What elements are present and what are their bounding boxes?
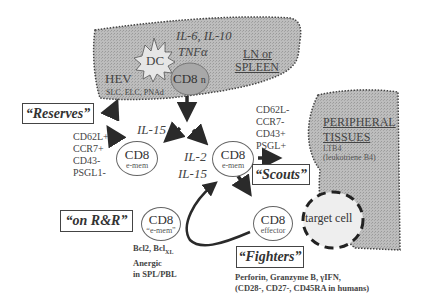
arrow-scouts-to-effector <box>238 176 246 188</box>
hev-sub: SLC, ELC, PNAd <box>106 89 164 97</box>
marker: PSGL1- <box>73 167 109 179</box>
scouts-cd8-cell: CD8 e-mem <box>212 141 254 177</box>
on-rr-desc: Bcl2, BclXL Anergic in SPL/PBL <box>133 243 177 280</box>
hev-label: HEV <box>105 72 132 85</box>
on-rr-label: “on R&R” <box>60 210 133 232</box>
peripheral-sub-1: LTB4 <box>323 145 341 153</box>
marker: CD43+ <box>256 128 289 140</box>
arrow-reserves-up1 <box>112 134 117 142</box>
fighters-label: “Fighters” <box>236 246 304 268</box>
cell-sub: effector <box>261 227 286 235</box>
cell-sub: e-mem <box>126 162 148 170</box>
peripheral-label-1: PERIPHERAL <box>323 116 396 128</box>
peripheral-sub-2: (leukotriene B4) <box>323 154 376 162</box>
cell-sub: “e-mem” <box>146 227 175 235</box>
scouts-cytokine-1: IL-2 <box>184 150 206 163</box>
reserves-label: “Reserves” <box>22 103 94 124</box>
cell-main: CD8 <box>149 213 174 226</box>
target-cell-label: target cell <box>305 212 352 224</box>
peripheral-label-2: TISSUES <box>323 131 370 143</box>
desc-line2: (CD28-, CD27-, CD45RA in humans) <box>235 283 369 294</box>
desc-line3: in SPL/PBL <box>133 269 177 280</box>
ln-spleen-label-2: SPLEEN <box>235 61 279 73</box>
arrow-reserves-up2 <box>110 108 114 117</box>
arrow-effector-loop <box>187 186 250 245</box>
arrow-to-reserves <box>171 128 180 136</box>
marker: CCR7+ <box>73 143 109 155</box>
scouts-cytokine-2: IL-15 <box>178 167 207 180</box>
effector-cd8-cell: CD8 effector <box>253 206 293 241</box>
cytokines-line1: IL-6, IL-10 <box>176 30 232 43</box>
desc-line1: Perforin, Granzyme B, γIFN, <box>235 272 369 283</box>
scouts-label: “Scouts” <box>252 164 310 185</box>
naive-cd8-main: CD8 n <box>173 72 206 85</box>
fighters-desc: Perforin, Granzyme B, γIFN, (CD28-, CD27… <box>235 272 369 294</box>
reserves-markers: CD62L+ CCR7+ CD43- PSGL1- <box>73 131 109 179</box>
cytokines-line2: TNFα <box>178 46 208 59</box>
scouts-markers: CD62L- CCR7- CD43+ PSGL+ <box>256 104 289 152</box>
cell-main: CD8 <box>125 148 150 161</box>
on-rr-cd8-cell: CD8 “e-mem” <box>141 207 181 241</box>
cell-main: CD8 <box>221 148 246 161</box>
ln-spleen-label-1: LN or <box>243 48 272 60</box>
cell-sub: e-mem <box>222 162 244 170</box>
desc-line2: Anergic <box>133 258 177 269</box>
arrow-to-scouts <box>193 130 201 138</box>
marker: CD62L- <box>256 104 289 116</box>
marker: PSGL+ <box>256 140 289 152</box>
reserves-cytokine: IL-15 <box>137 123 166 136</box>
cd8-memory-diagram: DC IL-6, IL-10 TNFα HEV SLC, ELC, PNAd C… <box>0 0 430 302</box>
marker: CCR7- <box>256 116 289 128</box>
marker: CD43- <box>73 155 109 167</box>
cell-main: CD8 <box>261 213 286 226</box>
marker: CD62L+ <box>73 131 109 143</box>
desc-line1: Bcl2, BclXL <box>133 243 177 258</box>
dc-label: DC <box>146 54 164 67</box>
reserves-cd8-cell: CD8 e-mem <box>116 141 158 176</box>
